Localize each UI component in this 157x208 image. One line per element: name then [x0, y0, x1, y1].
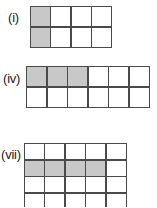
- grid-cell-empty: [107, 144, 126, 159]
- grid-cell-empty: [86, 144, 105, 159]
- grid-cell-empty: [51, 28, 70, 47]
- grid-cell-empty: [27, 88, 46, 107]
- grid-cell-empty: [51, 7, 70, 26]
- grid-cell-empty: [86, 177, 105, 192]
- grid-cell-shaded: [48, 67, 67, 86]
- figure-vii-label: (vii): [1, 148, 21, 161]
- figure-iv-label: (iv): [3, 72, 20, 85]
- grid-cell-empty: [92, 28, 111, 47]
- figure-vii-grid: [24, 143, 127, 207]
- grid-cell-empty: [48, 88, 67, 107]
- figure-i-grid: [30, 6, 113, 48]
- grid-cell-empty: [68, 88, 87, 107]
- grid-cell-empty: [25, 194, 44, 208]
- grid-cell-empty: [72, 7, 91, 26]
- grid-cell-empty: [25, 144, 44, 159]
- figure-i-label: (i): [8, 11, 19, 24]
- grid-cell-empty: [107, 177, 126, 192]
- grid-cell-empty: [45, 177, 64, 192]
- figure-vii: (vii): [0, 143, 127, 207]
- grid-cell-empty: [89, 88, 108, 107]
- figure-iv: (iv): [0, 66, 150, 108]
- grid-cell-empty: [89, 67, 108, 86]
- grid-cell-empty: [66, 194, 85, 208]
- grid-cell-empty: [107, 194, 126, 208]
- grid-cell-shaded: [27, 67, 46, 86]
- grid-cell-shaded: [31, 28, 50, 47]
- grid-cell-empty: [66, 177, 85, 192]
- grid-cell-empty: [72, 28, 91, 47]
- grid-cell-shaded: [45, 161, 64, 176]
- grid-cell-empty: [130, 67, 149, 86]
- grid-cell-shaded: [86, 161, 105, 176]
- grid-cell-empty: [107, 161, 126, 176]
- grid-cell-empty: [25, 177, 44, 192]
- grid-cell-empty: [45, 194, 64, 208]
- grid-cell-empty: [92, 7, 111, 26]
- grid-cell-empty: [109, 67, 128, 86]
- grid-cell-empty: [130, 88, 149, 107]
- grid-cell-empty: [45, 144, 64, 159]
- grid-cell-empty: [86, 194, 105, 208]
- grid-cell-shaded: [25, 161, 44, 176]
- grid-cell-shaded: [31, 7, 50, 26]
- grid-cell-shaded: [66, 161, 85, 176]
- grid-cell-empty: [109, 88, 128, 107]
- figure-i: (i): [0, 6, 112, 48]
- grid-cell-empty: [66, 144, 85, 159]
- grid-cell-shaded: [68, 67, 87, 86]
- figure-iv-grid: [26, 66, 150, 108]
